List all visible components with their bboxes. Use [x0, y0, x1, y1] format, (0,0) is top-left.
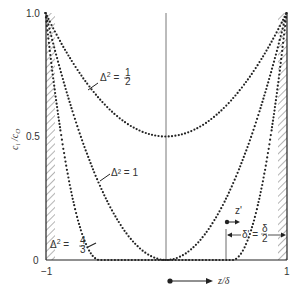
curve-point-2	[58, 120, 60, 122]
curve-point-1	[265, 88, 267, 90]
curve-point-0	[264, 52, 266, 54]
curve-point-1	[239, 165, 241, 167]
curve-point-0	[95, 94, 97, 96]
curve-point-2	[208, 259, 210, 261]
curve-point-0	[178, 134, 180, 136]
svg-text:2: 2	[262, 233, 268, 244]
curve-point-1	[48, 28, 50, 30]
curve-point-2	[49, 50, 51, 52]
curve-point-2	[281, 54, 283, 56]
curve-point-2	[75, 212, 77, 214]
curve-point-1	[263, 94, 265, 96]
curve-point-0	[262, 55, 264, 57]
curve-point-1	[257, 114, 259, 116]
curve-point-0	[274, 35, 276, 37]
svg-text:ci /cO: ci /cO	[9, 129, 22, 150]
curve-point-1	[242, 159, 244, 161]
y-axis-label: ci /cO	[9, 129, 22, 150]
curve-point-2	[48, 46, 50, 48]
curve-point-1	[266, 85, 268, 87]
curve-point-2	[88, 250, 90, 252]
curve-point-0	[66, 52, 68, 54]
curve-point-0	[84, 80, 86, 82]
curve-point-0	[57, 37, 59, 39]
curve-point-2	[158, 259, 160, 261]
curve-point-0	[71, 60, 73, 62]
curve-point-1	[62, 78, 64, 80]
curve-point-0	[265, 50, 267, 52]
curve-point-2	[218, 259, 220, 261]
curve-point-2	[257, 204, 259, 206]
curve-point-2	[57, 113, 59, 115]
curve-point-2	[51, 70, 53, 72]
curve-point-0	[193, 129, 195, 131]
curve-point-1	[81, 139, 83, 141]
curve-point-1	[251, 132, 253, 134]
curve-point-2	[258, 198, 260, 200]
curve-point-2	[56, 106, 58, 108]
curve-point-0	[202, 124, 204, 126]
curve-point-2	[279, 66, 281, 68]
curve-point-0	[145, 132, 147, 134]
curve-point-1	[232, 182, 234, 184]
curve-point-2	[62, 143, 64, 145]
curve-point-1	[271, 68, 273, 70]
annotation-delta-one: Δ² = 1	[100, 167, 138, 181]
curve-point-1	[82, 143, 84, 145]
curve-point-2	[55, 99, 57, 101]
curve-point-2	[244, 246, 246, 248]
curve-point-1	[113, 212, 115, 214]
curve-point-2	[215, 259, 217, 261]
curve-point-1	[259, 107, 261, 109]
curve-point-2	[263, 176, 265, 178]
curve-point-2	[271, 126, 273, 128]
curve-point-2	[181, 259, 183, 261]
curve-point-1	[142, 250, 144, 252]
curve-point-1	[109, 206, 111, 208]
curve-point-0	[216, 114, 218, 116]
curve-point-1	[255, 121, 257, 123]
curve-point-0	[199, 125, 201, 127]
curve-point-1	[96, 178, 98, 180]
curve-point-1	[237, 172, 239, 174]
curve-point-1	[50, 35, 52, 37]
curve-point-1	[137, 245, 139, 247]
curve-point-1	[56, 57, 58, 59]
curve-point-0	[171, 135, 173, 137]
svg-text:δ' =: δ' =	[242, 229, 258, 240]
curve-point-2	[46, 25, 48, 27]
curve-point-1	[248, 143, 250, 145]
curve-point-2	[45, 16, 47, 18]
curve-point-0	[205, 122, 207, 124]
curve-point-1	[88, 159, 90, 161]
curve-point-2	[51, 66, 53, 68]
curve-point-1	[229, 189, 231, 191]
curve-point-0	[52, 27, 54, 29]
curve-point-2	[277, 81, 279, 83]
curve-point-1	[55, 54, 57, 56]
curve-point-0	[78, 72, 80, 74]
curve-point-2	[58, 123, 60, 125]
curve-point-2	[202, 259, 204, 261]
curve-point-1	[85, 149, 87, 151]
curve-point-2	[60, 134, 62, 136]
curve-point-2	[44, 12, 46, 14]
curve-point-2	[256, 208, 258, 210]
curve-point-0	[104, 104, 106, 106]
curve-point-0	[59, 40, 61, 42]
curve-point-2	[276, 88, 278, 90]
curve-point-2	[53, 81, 55, 83]
curve-point-2	[110, 259, 112, 261]
curve-point-2	[261, 184, 263, 186]
curve-point-0	[277, 28, 279, 30]
curve-point-1	[281, 31, 283, 33]
curve-point-0	[106, 106, 108, 108]
annotation-z-prime: z'	[225, 205, 242, 225]
curve-point-0	[75, 66, 77, 68]
concentration-profile-chart: 1.0 0.5 0 −1 1 ci /cO Δ2 = 1 2 Δ² = 1 Δ2…	[0, 0, 298, 291]
curve-point-0	[218, 112, 220, 114]
curve-point-1	[195, 244, 197, 246]
curve-point-0	[47, 18, 49, 20]
curve-point-2	[47, 38, 49, 40]
curve-point-1	[100, 188, 102, 190]
